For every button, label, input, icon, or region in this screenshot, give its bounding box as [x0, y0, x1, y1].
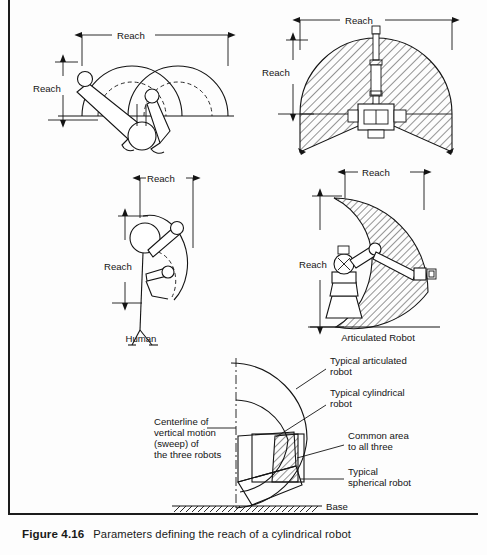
figure-number: Figure 4.16 — [22, 527, 84, 540]
label-centerline-of-vertical-motion: Centerline of vertical motion (sweep) of… — [154, 416, 221, 460]
reach-label-horizontal: Reach — [147, 173, 175, 184]
reach-label-horizontal: Reach — [117, 30, 145, 41]
panel-top-left: Reach Reach — [33, 30, 234, 154]
svg-text:to all three: to all three — [348, 441, 393, 452]
robot-base-body — [128, 122, 156, 150]
svg-text:Typical cylindrical: Typical cylindrical — [330, 387, 405, 398]
svg-text:the three robots: the three robots — [154, 449, 221, 460]
work-envelope-arc-right — [128, 66, 228, 116]
panel-bottom-combined: Typical articulated robot Typical cylind… — [154, 355, 411, 512]
panel-middle-left-human: Reach Reach — [104, 173, 193, 346]
panel-middle-right-articulated: Reach Reach — [299, 167, 440, 344]
label-typical-cylindrical-robot: Typical cylindrical robot — [330, 387, 405, 409]
reach-label-vertical: Reach — [299, 259, 327, 270]
panel-top-right: Reach Reach — [262, 15, 454, 156]
figure-artwork: Reach Reach — [0, 0, 487, 513]
svg-text:vertical motion: vertical motion — [154, 427, 216, 438]
articulated-robot-caption-label: Articulated Robot — [341, 332, 415, 343]
figure-caption-text: Parameters defining the reach of a cylin… — [93, 528, 351, 540]
reach-dimension-horizontal: Reach — [82, 30, 228, 67]
label-common-area: Common area to all three — [348, 430, 409, 452]
common-area-hatched — [272, 434, 298, 482]
figure-page: Reach Reach — [0, 0, 487, 555]
human-figure — [128, 222, 184, 346]
svg-text:Typical: Typical — [348, 466, 378, 477]
caption-separator-rule — [8, 513, 478, 515]
reach-label-vertical: Reach — [262, 67, 290, 78]
reach-label-horizontal: Reach — [345, 15, 373, 26]
figure-caption: Figure 4.16Parameters defining the reach… — [22, 527, 351, 540]
label-typical-articulated-robot: Typical articulated robot — [330, 355, 407, 377]
label-base: Base — [326, 501, 348, 512]
svg-text:Common area: Common area — [348, 430, 409, 441]
reach-label-vertical: Reach — [33, 83, 61, 94]
reach-label-horizontal: Reach — [362, 167, 390, 178]
leader-articulated — [296, 369, 326, 389]
svg-text:spherical robot: spherical robot — [348, 477, 411, 488]
label-typical-spherical-robot: Typical spherical robot — [348, 466, 411, 488]
human-caption-label: Human — [126, 333, 157, 344]
svg-text:(sweep) of: (sweep) of — [154, 438, 199, 449]
svg-text:robot: robot — [330, 366, 352, 377]
reach-label-vertical: Reach — [104, 261, 132, 272]
svg-text:robot: robot — [330, 398, 352, 409]
svg-text:Centerline of: Centerline of — [154, 416, 209, 427]
svg-text:Typical articulated: Typical articulated — [330, 355, 407, 366]
